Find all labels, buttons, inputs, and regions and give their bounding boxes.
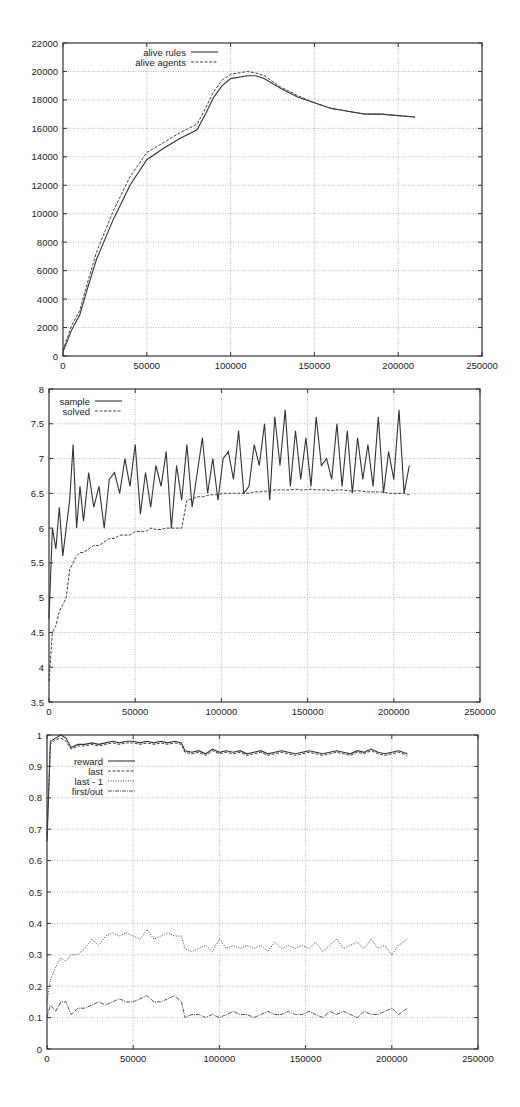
y-tick-label: 14000 — [32, 151, 58, 162]
x-tick-label: 100000 — [215, 360, 247, 371]
chart-svg: 00.10.20.30.40.50.60.70.80.9105000010000… — [0, 720, 520, 1090]
x-tick-label: 50000 — [134, 360, 160, 371]
chart-svg: 3.544.555.566.577.5805000010000015000020… — [0, 374, 520, 720]
y-tick-label: 4000 — [37, 294, 58, 305]
y-tick-label: 6 — [39, 523, 44, 534]
x-tick-label: 200000 — [376, 1053, 408, 1064]
y-tick-label: 6000 — [37, 265, 58, 276]
series-line — [47, 930, 407, 1002]
y-tick-label: 12000 — [32, 180, 58, 191]
y-tick-label: 22000 — [32, 38, 58, 49]
x-tick-label: 250000 — [462, 1053, 494, 1064]
x-tick-label: 150000 — [290, 1053, 322, 1064]
series-line — [49, 410, 409, 619]
x-tick-label: 150000 — [292, 706, 324, 717]
chart-reward-ratios: 00.10.20.30.40.50.60.70.80.9105000010000… — [0, 720, 520, 1094]
plot-frame — [63, 43, 482, 356]
x-tick-label: 50000 — [122, 706, 148, 717]
legend-label: solved — [63, 406, 90, 417]
y-tick-label: 2000 — [37, 322, 58, 333]
series-line — [47, 996, 407, 1018]
y-tick-label: 16000 — [32, 123, 58, 134]
x-tick-label: 50000 — [120, 1053, 146, 1064]
y-tick-label: 0.7 — [29, 824, 42, 835]
x-tick-label: 200000 — [382, 360, 414, 371]
y-tick-label: 7 — [39, 453, 44, 464]
x-tick-label: 250000 — [466, 360, 498, 371]
y-tick-label: 10000 — [32, 208, 58, 219]
y-tick-label: 4 — [39, 662, 44, 673]
y-tick-label: 3.5 — [31, 697, 44, 708]
y-tick-label: 6.5 — [31, 488, 44, 499]
x-tick-label: 100000 — [206, 706, 238, 717]
y-tick-label: 0.1 — [29, 1012, 42, 1023]
y-tick-label: 18000 — [32, 94, 58, 105]
y-tick-label: 0 — [37, 1044, 42, 1055]
chart-alive-counts: 0200040006000800010000120001400016000180… — [0, 14, 520, 382]
x-tick-label: 0 — [44, 1053, 49, 1064]
y-tick-label: 0.6 — [29, 855, 42, 866]
y-tick-label: 0.9 — [29, 761, 42, 772]
y-tick-label: 0.8 — [29, 792, 42, 803]
y-tick-label: 5.5 — [31, 557, 44, 568]
plot-frame — [49, 389, 480, 702]
legend-label: first/out — [72, 786, 104, 797]
x-tick-label: 200000 — [378, 706, 410, 717]
y-tick-label: 20000 — [32, 66, 58, 77]
x-tick-label: 0 — [60, 360, 65, 371]
legend-label: alive agents — [135, 57, 186, 68]
chart-svg: 0200040006000800010000120001400016000180… — [0, 14, 520, 378]
y-tick-label: 1 — [37, 730, 42, 741]
y-tick-label: 0.5 — [29, 887, 42, 898]
x-tick-label: 150000 — [299, 360, 331, 371]
y-tick-label: 0 — [53, 351, 58, 362]
x-tick-label: 250000 — [464, 706, 496, 717]
x-tick-label: 100000 — [204, 1053, 236, 1064]
y-tick-label: 7.5 — [31, 418, 44, 429]
y-tick-label: 0.2 — [29, 981, 42, 992]
chart-sample-solved: 3.544.555.566.577.5805000010000015000020… — [0, 374, 520, 724]
y-tick-label: 0.4 — [29, 918, 42, 929]
y-tick-label: 8000 — [37, 237, 58, 248]
y-tick-label: 5 — [39, 592, 44, 603]
y-tick-label: 8 — [39, 384, 44, 395]
x-tick-label: 0 — [46, 706, 51, 717]
y-tick-label: 4.5 — [31, 627, 44, 638]
y-tick-label: 0.3 — [29, 949, 42, 960]
